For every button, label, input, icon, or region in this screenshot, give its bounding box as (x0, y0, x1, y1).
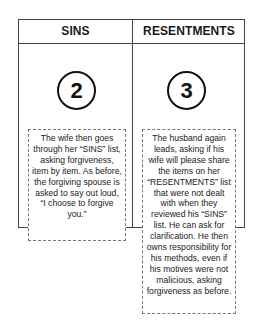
header-resentments: RESENTMENTS (133, 20, 245, 43)
column-divider (132, 20, 133, 227)
sins-description-note: The wife then goes through her “SINS” li… (28, 129, 126, 241)
step-number-circle-2: 2 (57, 71, 96, 110)
header-sins: SINS (19, 20, 132, 43)
step-number-circle-3: 3 (167, 71, 206, 110)
resentments-description-note: The husband again leads, asking if his w… (142, 129, 236, 314)
